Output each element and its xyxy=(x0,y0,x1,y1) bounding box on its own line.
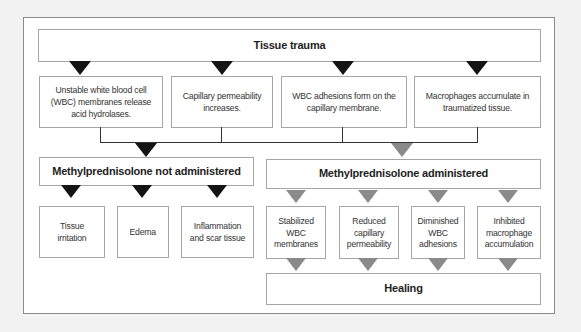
outcome-label: Reduced capillary permeability xyxy=(345,215,394,250)
outcome-label: Stabilized WBC membranes xyxy=(272,215,321,250)
effect-box-wbc-membranes: Unstable white blood cell (WBC) membrane… xyxy=(39,76,163,128)
arrow-down-icon xyxy=(286,258,306,271)
outcome-box-tissue-irritation: Tissue irritation xyxy=(39,206,105,258)
connector-line xyxy=(477,127,478,143)
effect-label: Capillary permeability increases. xyxy=(182,90,261,113)
arrow-down-icon xyxy=(69,61,91,75)
outcome-label: Inflammation and scar tissue xyxy=(188,220,247,243)
arrow-down-icon xyxy=(207,185,227,198)
arrow-down-icon xyxy=(332,61,354,75)
arrow-down-icon xyxy=(428,258,448,271)
connector-line xyxy=(222,142,478,143)
arrow-down-icon xyxy=(466,61,488,75)
result-label: Healing xyxy=(384,282,422,295)
arrow-down-icon xyxy=(211,61,233,75)
result-box-healing: Healing xyxy=(266,273,541,305)
connector-line xyxy=(342,127,343,143)
arrow-down-icon xyxy=(498,258,518,271)
connector-line xyxy=(221,127,222,143)
branch-box-not-administered: Methylprednisolone not administered xyxy=(39,157,254,186)
outcome-box-diminished-adhesions: Diminished WBC adhesions xyxy=(411,206,465,259)
branch-label: Methylprednisolone administered xyxy=(319,167,488,180)
effect-box-wbc-adhesions: WBC adhesions form on the capillary memb… xyxy=(281,76,407,128)
effect-label: Unstable white blood cell (WBC) membrane… xyxy=(46,84,156,119)
outcome-label: Inhibited macrophage accumulation xyxy=(482,215,536,250)
outcome-box-edema: Edema xyxy=(117,206,169,258)
arrow-down-icon xyxy=(358,258,378,271)
outcome-box-stabilized-wbc: Stabilized WBC membranes xyxy=(266,206,326,259)
arrow-down-icon xyxy=(61,185,81,198)
outcome-box-inflammation: Inflammation and scar tissue xyxy=(181,206,254,258)
effect-label: WBC adhesions form on the capillary memb… xyxy=(292,90,396,113)
arrow-down-icon xyxy=(391,143,413,157)
outcome-label: Edema xyxy=(130,226,156,238)
arrow-down-icon xyxy=(132,185,152,198)
effect-box-capillary-permeability: Capillary permeability increases. xyxy=(171,76,273,128)
effect-box-macrophages: Macrophages accumulate in traumatized ti… xyxy=(414,76,541,128)
connector-line xyxy=(100,127,101,143)
outcome-label: Diminished WBC adhesions xyxy=(416,215,459,250)
outcome-label: Tissue irritation xyxy=(50,220,93,243)
connector-line xyxy=(100,142,222,143)
outcome-box-reduced-permeability: Reduced capillary permeability xyxy=(339,206,399,259)
arrow-down-icon xyxy=(428,190,448,203)
branch-label: Methylprednisolone not administered xyxy=(52,165,241,178)
effect-label: Macrophages accumulate in traumatized ti… xyxy=(425,90,530,113)
root-box-tissue-trauma: Tissue trauma xyxy=(38,29,541,62)
arrow-down-icon xyxy=(135,143,157,157)
branch-box-administered: Methylprednisolone administered xyxy=(266,159,541,189)
outcome-box-inhibited-macrophage: Inhibited macrophage accumulation xyxy=(477,206,541,259)
root-label: Tissue trauma xyxy=(254,39,326,52)
arrow-down-icon xyxy=(358,190,378,203)
arrow-down-icon xyxy=(286,190,306,203)
arrow-down-icon xyxy=(498,190,518,203)
